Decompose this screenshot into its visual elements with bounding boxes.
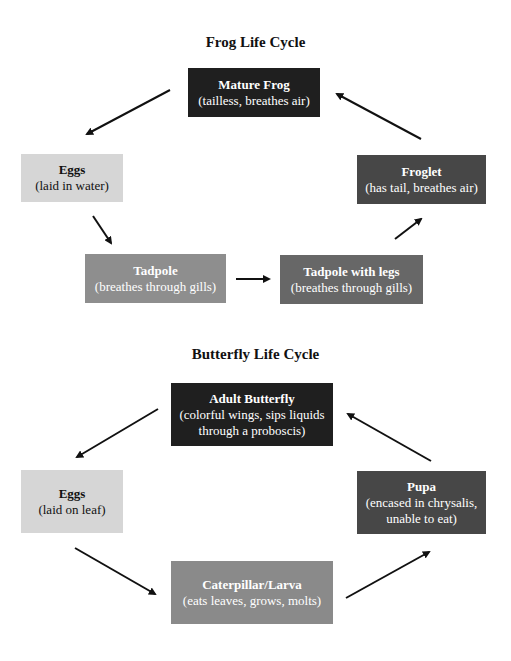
stage-desc: (encased in chrysalis, unable to eat) (363, 495, 480, 527)
stage-name: Pupa (407, 479, 436, 495)
stage-eggs: Eggs (laid on leaf) (21, 470, 123, 533)
butterfly-title: Butterfly Life Cycle (0, 346, 511, 363)
stage-desc: (breathes through gills) (291, 280, 412, 296)
stage-name: Mature Frog (218, 77, 289, 93)
arrow-mature-to-eggs (87, 90, 170, 134)
stage-desc: (laid in water) (35, 178, 109, 194)
stage-desc: (tailless, breathes air) (198, 93, 310, 109)
frog-title: Frog Life Cycle (0, 34, 511, 51)
stage-name: Eggs (59, 162, 86, 178)
arrow-caterpillar-to-pupa (346, 552, 429, 598)
stage-name: Eggs (59, 486, 86, 502)
stage-desc: (colorful wings, sips liquids through a … (175, 407, 329, 439)
stage-adult-butterfly: Adult Butterfly (colorful wings, sips li… (171, 383, 333, 446)
stage-name: Caterpillar/Larva (202, 577, 302, 593)
stage-desc: (breathes through gills) (95, 279, 216, 295)
stage-mature-frog: Mature Frog (tailless, breathes air) (188, 68, 320, 117)
arrow-legs-to-froglet (395, 219, 421, 239)
stage-tadpole: Tadpole (breathes through gills) (85, 254, 226, 303)
stage-name: Froglet (401, 164, 441, 180)
arrow-eggs-to-tadpole (93, 216, 111, 243)
stage-name: Tadpole (133, 263, 177, 279)
arrow-froglet-to-mature (337, 94, 421, 139)
stage-eggs: Eggs (laid in water) (21, 154, 123, 202)
stage-tadpole-with-legs: Tadpole with legs (breathes through gill… (280, 255, 423, 304)
stage-desc: (laid on leaf) (38, 502, 105, 518)
stage-name: Adult Butterfly (209, 391, 295, 407)
arrow-pupa-to-adult (348, 414, 431, 461)
stage-pupa: Pupa (encased in chrysalis, unable to ea… (357, 471, 486, 534)
stage-caterpillar: Caterpillar/Larva (eats leaves, grows, m… (171, 561, 333, 624)
stage-froglet: Froglet (has tail, breathes air) (357, 155, 486, 204)
stage-desc: (has tail, breathes air) (365, 180, 478, 196)
stage-desc: (eats leaves, grows, molts) (183, 593, 321, 609)
stage-name: Tadpole with legs (303, 264, 399, 280)
arrow-adult-to-eggs (77, 409, 158, 457)
arrow-eggs-to-caterpillar (75, 548, 155, 594)
